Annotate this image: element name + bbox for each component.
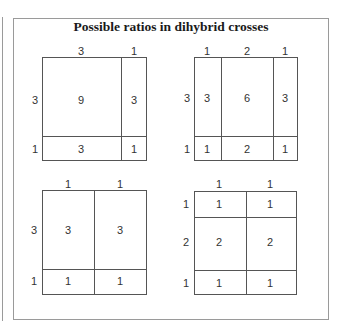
cell-value: 2 <box>244 144 250 155</box>
cell-value: 3 <box>204 93 210 104</box>
top-label: 1 <box>216 179 222 190</box>
top-label: 1 <box>267 179 273 190</box>
divider <box>121 58 122 160</box>
square-box <box>194 191 297 295</box>
cell-value: 1 <box>117 276 123 287</box>
cell-value: 1 <box>131 144 137 155</box>
divider <box>195 270 296 271</box>
left-label: 3 <box>32 95 38 106</box>
divider <box>94 191 95 294</box>
top-label: 2 <box>244 46 250 57</box>
cell-value: 3 <box>117 225 123 236</box>
top-label: 3 <box>78 46 84 57</box>
cell-value: 1 <box>216 199 222 210</box>
cell-value: 3 <box>78 144 84 155</box>
diagram-title: Possible ratios in dihybrid crosses <box>13 19 329 35</box>
cell-value: 1 <box>204 144 210 155</box>
top-label: 1 <box>282 46 288 57</box>
divider <box>246 192 247 294</box>
left-label: 3 <box>31 225 37 236</box>
cell-value: 1 <box>216 278 222 289</box>
cell-value: 1 <box>267 199 273 210</box>
top-label: 1 <box>117 179 123 190</box>
cell-value: 1 <box>267 278 273 289</box>
cell-value: 3 <box>65 225 71 236</box>
top-label: 1 <box>131 46 137 57</box>
cell-value: 1 <box>65 276 71 287</box>
left-label: 1 <box>184 144 190 155</box>
square-box <box>42 190 147 295</box>
cell-value: 9 <box>78 95 84 106</box>
divider <box>221 58 222 160</box>
left-label: 1 <box>31 276 37 287</box>
divider <box>43 269 146 270</box>
divider <box>195 217 296 218</box>
left-label: 1 <box>183 199 189 210</box>
left-label: 2 <box>183 237 189 248</box>
divider <box>43 136 146 137</box>
left-label: 1 <box>32 144 38 155</box>
cell-value: 6 <box>244 93 250 104</box>
left-label: 3 <box>184 93 190 104</box>
top-label: 1 <box>65 179 71 190</box>
cell-value: 2 <box>267 237 273 248</box>
left-edge-line <box>2 17 3 321</box>
cell-value: 2 <box>216 237 222 248</box>
cell-value: 1 <box>282 144 288 155</box>
left-label: 1 <box>183 278 189 289</box>
cell-value: 3 <box>282 93 288 104</box>
top-label: 1 <box>204 46 210 57</box>
cell-value: 3 <box>131 95 137 106</box>
divider <box>273 58 274 160</box>
divider <box>195 136 297 137</box>
